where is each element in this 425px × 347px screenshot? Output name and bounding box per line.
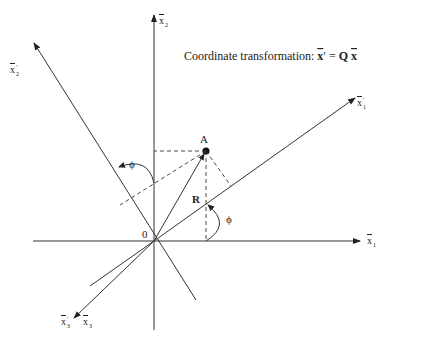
phi-label-1: ϕ — [226, 213, 232, 225]
angle-arc-phi-1 — [206, 205, 220, 241]
svg-text:1: 1 — [373, 242, 376, 248]
x3-prime-axis-label: x ′ 3 — [61, 316, 70, 329]
x2-prime-axis-label: x ′ 2 — [10, 64, 19, 77]
x3-axis-label: x 3 — [83, 316, 92, 329]
angle-arc-phi-2 — [119, 164, 154, 183]
title-eq: = — [326, 49, 339, 63]
svg-text:′: ′ — [363, 97, 365, 103]
svg-text:x: x — [159, 15, 164, 26]
svg-text:2: 2 — [16, 71, 19, 77]
svg-text:x: x — [357, 97, 362, 108]
title-prefix: Coordinate transformation: — [184, 49, 317, 63]
svg-text:′: ′ — [67, 316, 69, 322]
svg-text:1: 1 — [363, 104, 366, 110]
dashed-a-to-x1-prime — [206, 151, 231, 186]
svg-text:3: 3 — [67, 323, 70, 329]
svg-text:3: 3 — [89, 323, 92, 329]
x3-prime-axis — [74, 241, 154, 318]
point-a-label: A — [200, 133, 208, 145]
svg-text:x: x — [367, 235, 372, 246]
svg-text:x: x — [83, 316, 88, 327]
diagram-title: Coordinate transformation: x′ = Q x — [184, 49, 357, 63]
x1-axis-label: x 1 — [367, 235, 376, 248]
title-q: Q — [339, 49, 348, 63]
svg-text:x: x — [10, 64, 15, 75]
x2-prime-axis — [34, 43, 196, 300]
x1-prime-axis-label: x ′ 1 — [357, 97, 366, 110]
svg-text:′: ′ — [16, 64, 18, 70]
phi-label-2: ϕ — [129, 158, 135, 170]
x2-axis-label: x 2 — [159, 15, 168, 28]
title-rhs: x — [351, 49, 357, 63]
origin-label: 0 — [142, 228, 148, 240]
vector-r-label: R — [192, 193, 201, 205]
coordinate-transformation-diagram: 0 A R ϕ ϕ x 2 x 1 x ′ 1 x ′ 2 x ′ 3 x 3 … — [0, 0, 425, 347]
x3-axis — [90, 241, 154, 286]
svg-text:2: 2 — [165, 22, 168, 28]
svg-text:x: x — [61, 316, 66, 327]
x1-prime-axis — [154, 98, 355, 241]
